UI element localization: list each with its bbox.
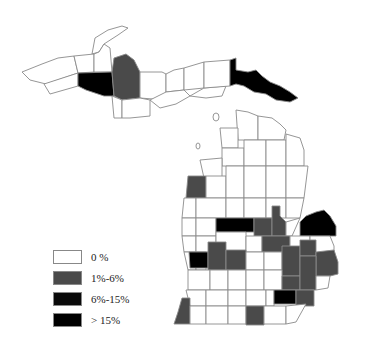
lp-r9-5-black — [274, 290, 296, 304]
up-county-east-black — [230, 58, 298, 102]
lp-nw-1 — [220, 128, 238, 148]
lp-r7-1b-dark — [189, 252, 208, 268]
lp-r8-5-gray — [282, 276, 300, 290]
legend-label: > 15% — [91, 314, 120, 326]
up-county-c — [112, 96, 122, 118]
lp-r7-5 — [264, 252, 282, 270]
lp-r4-5 — [286, 198, 304, 218]
lp-r2-4 — [286, 134, 304, 166]
legend-label: 6%-15% — [91, 293, 130, 305]
lp-r7-8-gray — [316, 250, 338, 276]
lp-r3-3 — [244, 166, 266, 198]
lp-r7-4 — [246, 252, 264, 270]
lp-r10-0-gray — [174, 298, 190, 324]
up-county-mid-dark — [78, 72, 114, 96]
lp-r4-2 — [226, 198, 244, 218]
lp-r5-3-gray — [254, 218, 272, 236]
legend-swatch-zero — [53, 250, 82, 264]
lp-r3-4 — [266, 166, 286, 198]
lp-r7-2-gray — [208, 242, 226, 270]
legend-swatch-low — [53, 271, 82, 285]
lp-r10-4-gray — [246, 306, 264, 325]
legend-item-mid: 6%-15% — [53, 288, 130, 309]
lp-r10-1 — [190, 306, 206, 324]
lp-r8-7 — [316, 276, 330, 290]
lp-r4-0 — [182, 198, 196, 218]
lp-r5-0 — [182, 218, 196, 236]
legend-item-high: > 15% — [53, 309, 130, 330]
lp-r7-3-gray — [226, 250, 246, 270]
legend-swatch-mid — [53, 292, 82, 306]
lp-r7-7-gray — [300, 240, 316, 256]
lp-tip-2 — [258, 116, 286, 140]
lp-r5-2-dark — [216, 218, 254, 232]
lp-r6-0 — [182, 236, 196, 252]
lp-r8-4 — [264, 270, 282, 290]
island-1 — [213, 113, 219, 121]
lp-r6-3 — [246, 236, 262, 252]
lp-r10-2 — [206, 306, 228, 324]
lp-tip-1 — [236, 110, 258, 140]
lp-r2-3 — [266, 140, 286, 166]
lp-r5-5 — [286, 218, 300, 236]
lp-r7-6-gray — [282, 246, 300, 276]
lp-thumb-black — [300, 210, 336, 236]
lp-r9-1 — [206, 290, 228, 306]
up-county-f — [166, 68, 184, 92]
lp-r8-3 — [246, 270, 264, 290]
legend-item-low: 1%-6% — [53, 267, 130, 288]
lp-r4-1 — [196, 198, 226, 218]
lp-r8-6-gray — [300, 256, 316, 290]
lp-r8-1 — [210, 270, 228, 290]
lp-r2-1 — [222, 148, 244, 166]
legend-label: 0 % — [91, 251, 108, 263]
lp-r4-3 — [244, 198, 266, 218]
lp-r9-4 — [266, 290, 274, 306]
up-county-j — [204, 60, 230, 88]
lp-r8-2 — [228, 270, 246, 290]
legend-swatch-high — [53, 313, 82, 327]
lp-r2-2 — [244, 140, 266, 166]
lp-r8-0 — [188, 270, 210, 290]
lp-r10-3 — [228, 306, 246, 324]
lp-r5-1 — [196, 218, 216, 236]
lp-r2-w — [200, 158, 222, 178]
legend-label: 1%-6% — [91, 272, 124, 284]
legend-item-zero: 0 % — [53, 246, 130, 267]
lp-r10-5 — [264, 306, 286, 324]
lp-r9-2 — [228, 290, 246, 306]
map-legend: 0 % 1%-6% 6%-15% > 15% — [53, 246, 130, 330]
lp-r3-1 — [206, 176, 226, 198]
island-2 — [196, 143, 200, 149]
lp-r3-0 — [186, 176, 206, 198]
lp-r3-2 — [226, 166, 244, 198]
up-county-e — [122, 98, 150, 118]
up-county-h — [184, 62, 204, 90]
lp-r10-6 — [286, 304, 306, 324]
up-county-a — [74, 54, 94, 73]
lp-r3-5 — [286, 166, 308, 198]
lp-r9-3 — [246, 290, 266, 306]
lp-r9-6-gray — [296, 290, 314, 306]
up-county-marquette-gray — [112, 54, 140, 100]
